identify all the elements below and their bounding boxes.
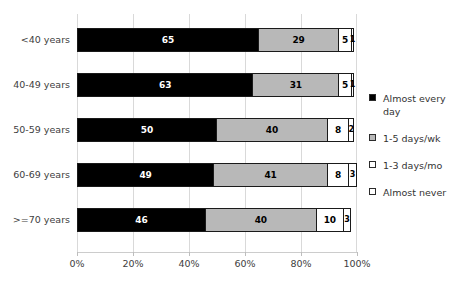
y-axis-label-0: <40 years <box>0 28 70 52</box>
white-square-icon <box>369 161 376 168</box>
x-axis-tick-label-3: 60% <box>225 258 265 269</box>
chart-legend: Almost every day 1-5 days/wk 1-3 days/mo… <box>369 92 464 199</box>
legend-item-label: 1-5 days/wk <box>383 132 440 145</box>
bar-segment-1-5-days-wk[interactable]: 41 <box>213 163 328 187</box>
table-row[interactable]: 46 40 10 3 <box>77 208 357 232</box>
bar-segment-label: 40 <box>255 216 267 225</box>
bar-segment-almost-never[interactable]: 3 <box>343 208 351 232</box>
bar-segment-almost-every-day[interactable]: 65 <box>77 28 259 52</box>
bar-segment-almost-every-day[interactable]: 49 <box>77 163 214 187</box>
bar-segment-label: 31 <box>290 81 302 90</box>
bar-segment-almost-never[interactable]: 2 <box>348 118 354 142</box>
x-axis-line <box>77 252 358 253</box>
bar-segment-1-3-days-mo[interactable]: 10 <box>316 208 344 232</box>
bar-segment-label: 3 <box>350 171 355 179</box>
bar-segment-1-3-days-mo[interactable]: 8 <box>327 118 349 142</box>
table-row[interactable]: 49 41 8 3 <box>77 163 357 187</box>
bar-segment-label: 8 <box>335 171 341 180</box>
y-axis-label-2: 50-59 years <box>0 118 70 142</box>
y-axis-label-4: >=70 years <box>0 208 70 232</box>
bar-segment-almost-never[interactable]: 3 <box>348 163 356 187</box>
bar-segment-1-5-days-wk[interactable]: 29 <box>258 28 339 52</box>
bar-segment-label: 5 <box>342 81 348 90</box>
bar-segment-1-3-days-mo[interactable]: 8 <box>327 163 349 187</box>
bar-segment-1-5-days-wk[interactable]: 40 <box>205 208 317 232</box>
legend-item-almost-never[interactable]: Almost never <box>369 186 464 199</box>
bar-segment-1-5-days-wk[interactable]: 40 <box>216 118 328 142</box>
bar-segment-label: 29 <box>292 36 304 45</box>
x-axis-tick-label-2: 40% <box>169 258 209 269</box>
gray-square-icon <box>369 134 376 141</box>
bar-segment-label: 50 <box>141 126 153 135</box>
legend-item-label: 1-3 days/mo <box>383 159 442 172</box>
bar-segment-label: 10 <box>324 216 336 225</box>
bar-segment-label: 8 <box>335 126 341 135</box>
x-axis-tick-label-5: 100% <box>337 258 377 269</box>
legend-item-label: Almost never <box>383 186 446 199</box>
table-row[interactable]: 63 31 5 1 <box>77 73 357 97</box>
x-axis-tick-label-1: 20% <box>113 258 153 269</box>
bar-segment-label: 46 <box>135 216 147 225</box>
bar-segment-label: 49 <box>139 171 151 180</box>
legend-item-almost-every-day[interactable]: Almost every day <box>369 92 464 118</box>
x-axis-tick-80 <box>301 252 302 256</box>
y-axis-label-1: 40-49 years <box>0 73 70 97</box>
bar-segment-almost-never[interactable]: 1 <box>351 28 354 52</box>
plot-area: 65 29 5 1 63 31 5 1 <box>77 14 357 252</box>
x-axis-tick-100 <box>357 252 358 256</box>
bar-segment-label: 5 <box>342 36 348 45</box>
bar-segment-label: 41 <box>264 171 276 180</box>
legend-item-1-3-days-mo[interactable]: 1-3 days/mo <box>369 159 464 172</box>
bar-segment-label: 65 <box>162 36 174 45</box>
x-axis-tick-0 <box>77 252 78 256</box>
x-axis-tick-label-4: 80% <box>281 258 321 269</box>
bar-segment-label: 1 <box>350 81 355 89</box>
legend-item-1-5-days-wk[interactable]: 1-5 days/wk <box>369 132 464 145</box>
bar-segment-almost-every-day[interactable]: 50 <box>77 118 217 142</box>
bar-segment-almost-every-day[interactable]: 46 <box>77 208 206 232</box>
bar-segment-label: 3 <box>344 216 349 224</box>
bar-segment-label: 63 <box>159 81 171 90</box>
x-axis-tick-40 <box>189 252 190 256</box>
white-square-icon <box>369 188 376 195</box>
y-axis-label-3: 60-69 years <box>0 163 70 187</box>
bar-segment-label: 2 <box>348 126 353 134</box>
x-axis-tick-20 <box>133 252 134 256</box>
stacked-bar-chart: 65 29 5 1 63 31 5 1 <box>0 0 466 286</box>
legend-item-label: Almost every day <box>383 92 464 118</box>
bar-segment-almost-every-day[interactable]: 63 <box>77 73 253 97</box>
bar-segment-1-5-days-wk[interactable]: 31 <box>252 73 339 97</box>
bar-segment-label: 1 <box>350 36 355 44</box>
bar-segment-almost-never[interactable]: 1 <box>351 73 354 97</box>
table-row[interactable]: 65 29 5 1 <box>77 28 357 52</box>
x-axis-tick-60 <box>245 252 246 256</box>
x-axis-tick-label-0: 0% <box>57 258 97 269</box>
black-square-icon <box>369 94 376 101</box>
bar-segment-label: 40 <box>266 126 278 135</box>
table-row[interactable]: 50 40 8 2 <box>77 118 357 142</box>
